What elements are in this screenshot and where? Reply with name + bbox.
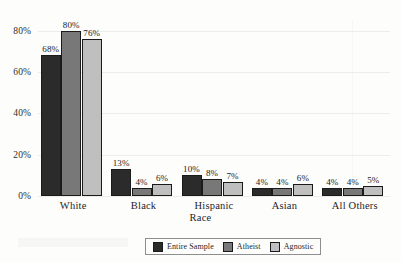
bar-group: 10%8%7% bbox=[182, 14, 243, 196]
x-axis-category-label: All Others bbox=[320, 200, 390, 211]
bar[interactable] bbox=[293, 184, 313, 196]
legend-label: Agnostic bbox=[284, 242, 314, 251]
x-axis-category-label: Hispanic bbox=[179, 200, 249, 211]
x-axis-category-label: Asian bbox=[249, 200, 319, 211]
bar[interactable] bbox=[322, 188, 342, 196]
bar-slot: 4% bbox=[272, 14, 292, 196]
legend-swatch-icon bbox=[153, 242, 163, 252]
bar-value-label: 6% bbox=[156, 173, 168, 183]
bar[interactable] bbox=[41, 55, 61, 196]
bar-slot: 10% bbox=[182, 14, 202, 196]
bar[interactable] bbox=[61, 31, 81, 196]
bar-value-label: 13% bbox=[113, 158, 130, 168]
y-axis-tick-label: 20% bbox=[13, 150, 31, 160]
bar-value-label: 76% bbox=[83, 28, 100, 38]
bar-slot: 8% bbox=[202, 14, 222, 196]
bar-value-label: 6% bbox=[297, 173, 309, 183]
bar-value-label: 68% bbox=[42, 44, 59, 54]
y-axis: 0%20%40%60%80% bbox=[0, 14, 36, 196]
bar[interactable] bbox=[182, 175, 202, 196]
bar-slot: 5% bbox=[363, 14, 383, 196]
bar-slot: 80% bbox=[61, 14, 81, 196]
bar-slot: 6% bbox=[152, 14, 172, 196]
bar-slot: 68% bbox=[41, 14, 61, 196]
chart-legend: Entire SampleAtheistAgnostic bbox=[145, 238, 321, 255]
bar[interactable] bbox=[272, 188, 292, 196]
plot-area: 68%80%76%13%4%6%10%8%7%4%4%6%4%4%5% bbox=[38, 14, 390, 196]
y-axis-tick-label: 40% bbox=[13, 108, 31, 118]
bar[interactable] bbox=[152, 184, 172, 196]
bar[interactable] bbox=[132, 188, 152, 196]
bar-value-label: 4% bbox=[256, 177, 268, 187]
bar-value-label: 4% bbox=[135, 177, 147, 187]
legend-item[interactable]: Entire Sample bbox=[153, 242, 214, 252]
bar-value-label: 7% bbox=[226, 171, 238, 181]
bar-slot: 6% bbox=[293, 14, 313, 196]
scan-artifact bbox=[18, 238, 128, 247]
bar-slot: 4% bbox=[343, 14, 363, 196]
bar-group: 68%80%76% bbox=[41, 14, 102, 196]
legend-item[interactable]: Atheist bbox=[223, 242, 261, 252]
bar[interactable] bbox=[223, 182, 243, 196]
y-axis-tick-label: 60% bbox=[13, 67, 31, 77]
bar-value-label: 80% bbox=[63, 20, 80, 30]
legend-label: Entire Sample bbox=[167, 242, 214, 251]
bar-slot: 7% bbox=[223, 14, 243, 196]
bar[interactable] bbox=[202, 179, 222, 196]
bar-slot: 4% bbox=[252, 14, 272, 196]
x-axis-title: Race bbox=[0, 212, 401, 223]
bar-group: 4%4%6% bbox=[252, 14, 313, 196]
x-axis-category-label: White bbox=[38, 200, 108, 211]
bar-group: 13%4%6% bbox=[111, 14, 172, 196]
bar-slot: 4% bbox=[322, 14, 342, 196]
bar-group: 4%4%5% bbox=[322, 14, 383, 196]
bar-value-label: 5% bbox=[367, 175, 379, 185]
bar[interactable] bbox=[111, 169, 131, 196]
legend-swatch-icon bbox=[223, 242, 233, 252]
bar[interactable] bbox=[82, 39, 102, 196]
gridline bbox=[38, 196, 390, 197]
bar-slot: 76% bbox=[82, 14, 102, 196]
bar-slot: 4% bbox=[132, 14, 152, 196]
bar[interactable] bbox=[343, 188, 363, 196]
bar-value-label: 4% bbox=[347, 177, 359, 187]
legend-label: Atheist bbox=[237, 242, 261, 251]
legend-item[interactable]: Agnostic bbox=[270, 242, 314, 252]
bar-value-label: 10% bbox=[183, 164, 200, 174]
bar[interactable] bbox=[363, 186, 383, 196]
bar-chart: 0%20%40%60%80% 68%80%76%13%4%6%10%8%7%4%… bbox=[0, 0, 401, 262]
y-axis-tick-label: 80% bbox=[13, 26, 31, 36]
bar-value-label: 4% bbox=[276, 177, 288, 187]
bar-slot: 13% bbox=[111, 14, 131, 196]
legend-swatch-icon bbox=[270, 242, 280, 252]
y-axis-tick-label: 0% bbox=[18, 191, 31, 201]
bar-value-label: 8% bbox=[206, 168, 218, 178]
x-axis-category-label: Black bbox=[108, 200, 178, 211]
bar[interactable] bbox=[252, 188, 272, 196]
bar-value-label: 4% bbox=[326, 177, 338, 187]
